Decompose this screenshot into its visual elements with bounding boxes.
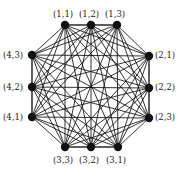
graph-vertex-v7 bbox=[114, 143, 122, 151]
graph-edge bbox=[91, 56, 149, 147]
graph-vertex-v6 bbox=[145, 114, 153, 122]
graph-vertex-v4 bbox=[145, 52, 153, 60]
graph-edge bbox=[65, 25, 149, 88]
graph-vertex-v12 bbox=[28, 51, 36, 59]
vertex-label-v4: (2,1) bbox=[155, 51, 175, 60]
graph-vertex-v8 bbox=[87, 143, 95, 151]
graph-vertex-v5 bbox=[145, 84, 153, 92]
graph-edge bbox=[32, 55, 149, 56]
graph-edge bbox=[32, 55, 65, 147]
complete-graph-figure: (1,1)(1,2)(1,3)(2,1)(2,2)(2,3)(3,1)(3,2)… bbox=[0, 0, 181, 174]
graph-edge bbox=[32, 87, 149, 88]
vertex-label-v2: (1,2) bbox=[79, 10, 99, 19]
vertex-label-v11: (4,2) bbox=[3, 83, 23, 92]
vertex-label-v12: (4,3) bbox=[3, 51, 23, 60]
graph-vertex-v3 bbox=[113, 21, 121, 29]
vertex-label-v5: (2,2) bbox=[155, 83, 175, 92]
vertex-label-v8: (3,2) bbox=[79, 156, 99, 165]
vertex-label-v6: (2,3) bbox=[155, 113, 175, 122]
graph-vertex-v9 bbox=[61, 143, 69, 151]
graph-vertex-v11 bbox=[28, 83, 36, 91]
graph-edge bbox=[32, 55, 149, 118]
graph-vertex-v2 bbox=[87, 21, 95, 29]
graph-edge bbox=[117, 25, 149, 56]
vertex-label-v3: (1,3) bbox=[105, 10, 125, 19]
graph-vertex-v10 bbox=[28, 113, 36, 121]
vertex-label-v9: (3,3) bbox=[53, 156, 73, 165]
edge-layer bbox=[32, 25, 149, 147]
graph-edge bbox=[32, 87, 149, 118]
vertex-label-v10: (4,1) bbox=[3, 113, 23, 122]
vertex-label-v1: (1,1) bbox=[53, 10, 73, 19]
graph-edge bbox=[117, 25, 149, 88]
graph-canvas bbox=[0, 0, 181, 174]
graph-vertex-v1 bbox=[61, 21, 69, 29]
vertex-label-v7: (3,1) bbox=[106, 156, 126, 165]
